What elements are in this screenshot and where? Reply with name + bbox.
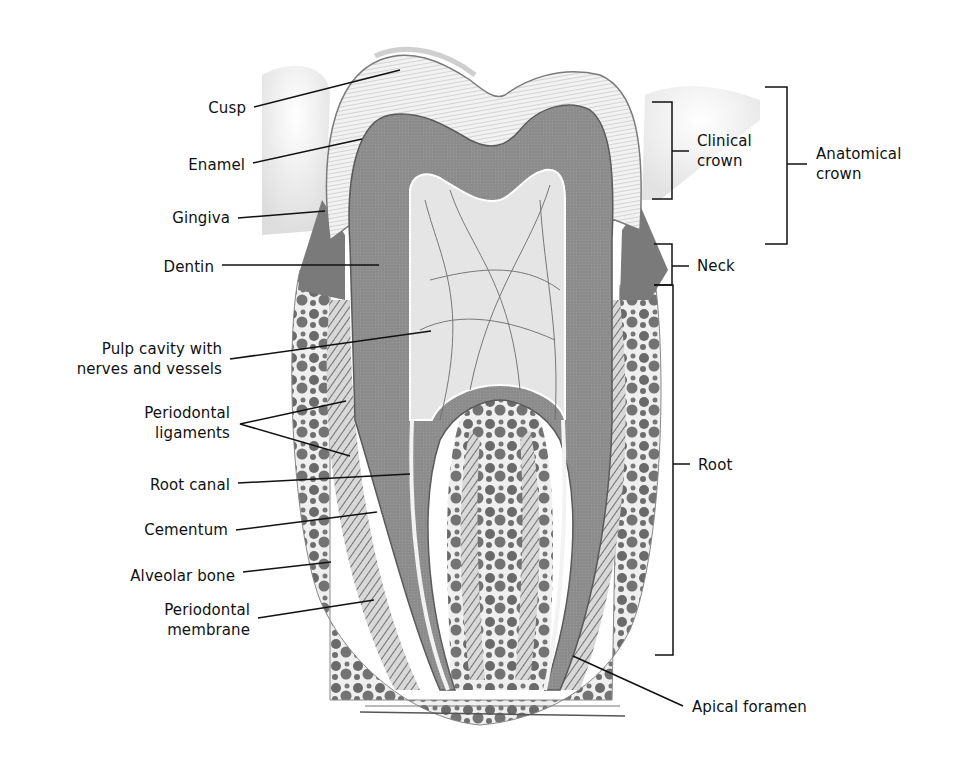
label-clinical-crown-line2: crown <box>697 151 752 171</box>
label-periodontal-ligaments-line1: Periodontal <box>80 403 230 423</box>
label-neck: Neck <box>697 256 735 276</box>
label-neck-text: Neck <box>697 256 735 276</box>
label-root: Root <box>698 455 732 475</box>
label-pulp-cavity-line1: Pulp cavity with <box>30 339 222 359</box>
label-periodontal-membrane-line1: Periodontal <box>100 600 250 620</box>
label-enamel: Enamel <box>140 155 245 175</box>
label-periodontal-ligaments-line2: ligaments <box>80 423 230 443</box>
label-root-canal-text: Root canal <box>90 475 230 495</box>
label-apical-foramen: Apical foramen <box>692 697 807 717</box>
label-clinical-crown: Clinical crown <box>697 131 752 171</box>
label-dentin: Dentin <box>110 257 214 277</box>
label-cusp: Cusp <box>150 98 246 118</box>
tooth-anatomy-diagram: Cusp Enamel Gingiva Dentin Pulp cavity w… <box>0 0 963 768</box>
label-periodontal-membrane-line2: membrane <box>100 620 250 640</box>
label-pulp-cavity: Pulp cavity with nerves and vessels <box>30 339 222 379</box>
label-periodontal-membrane: Periodontal membrane <box>100 600 250 640</box>
label-root-text: Root <box>698 455 732 475</box>
label-periodontal-ligaments: Periodontal ligaments <box>80 403 230 443</box>
label-anatomical-crown: Anatomical crown <box>816 144 901 184</box>
label-pulp-cavity-line2: nerves and vessels <box>30 359 222 379</box>
label-alveolar-bone-text: Alveolar bone <box>60 566 235 586</box>
label-cementum: Cementum <box>90 520 228 540</box>
label-gingiva: Gingiva <box>120 208 230 228</box>
tooth-illustration <box>0 0 963 768</box>
label-cementum-text: Cementum <box>90 520 228 540</box>
label-root-canal: Root canal <box>90 475 230 495</box>
label-anatomical-crown-line1: Anatomical <box>816 144 901 164</box>
label-cusp-text: Cusp <box>150 98 246 118</box>
label-enamel-text: Enamel <box>140 155 245 175</box>
label-apical-foramen-text: Apical foramen <box>692 697 807 717</box>
label-dentin-text: Dentin <box>110 257 214 277</box>
label-clinical-crown-line1: Clinical <box>697 131 752 151</box>
label-anatomical-crown-line2: crown <box>816 164 901 184</box>
label-gingiva-text: Gingiva <box>120 208 230 228</box>
label-alveolar-bone: Alveolar bone <box>60 566 235 586</box>
